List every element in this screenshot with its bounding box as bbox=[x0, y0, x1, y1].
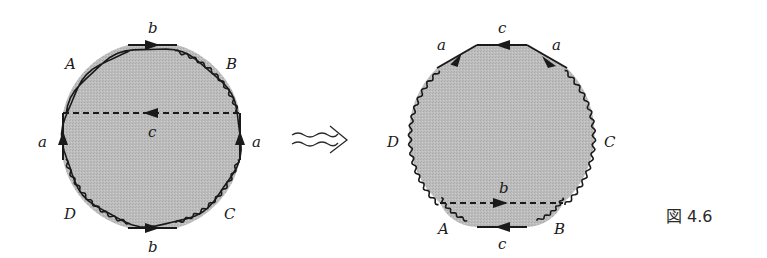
right-label-upper-right-a: a bbox=[552, 36, 561, 54]
right-vertex-D: D bbox=[386, 133, 399, 151]
left-label-left-a: a bbox=[38, 133, 47, 151]
left-label-cut-c: c bbox=[148, 123, 157, 141]
right-vertex-C: C bbox=[604, 133, 616, 151]
wavy-double-arrow-icon bbox=[292, 126, 347, 153]
right-disk-fill bbox=[409, 45, 595, 227]
right-label-upper-left-a: a bbox=[437, 36, 446, 54]
right-vertex-A: A bbox=[436, 220, 449, 238]
right-label-cut-b: b bbox=[499, 179, 509, 197]
right-label-bottom-c: c bbox=[498, 235, 507, 253]
left-label-bottom-b: b bbox=[148, 238, 158, 256]
left-vertex-D: D bbox=[63, 205, 76, 223]
figure-caption: 図 4.6 bbox=[666, 207, 713, 226]
left-vertex-B: B bbox=[225, 55, 237, 73]
left-diagram: b b a a c A B D C bbox=[38, 19, 261, 256]
left-vertex-C: C bbox=[224, 205, 236, 223]
right-label-top-c: c bbox=[498, 19, 507, 37]
right-diagram: c c a a b D C A B bbox=[386, 19, 616, 253]
right-vertex-B: B bbox=[553, 220, 565, 238]
left-vertex-A: A bbox=[63, 55, 76, 73]
figure-canvas: b b a a c A B D C c c a a bbox=[0, 0, 767, 258]
left-label-top-b: b bbox=[148, 19, 158, 37]
left-label-right-a: a bbox=[252, 133, 261, 151]
